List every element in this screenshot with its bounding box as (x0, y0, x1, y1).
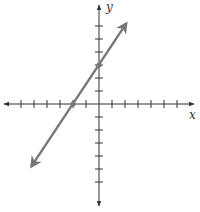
x-axis-label: x (189, 108, 196, 122)
marked-point (96, 62, 101, 67)
plotted-line (31, 23, 126, 166)
marked-point (70, 101, 75, 106)
coordinate-plane: y x (0, 0, 200, 212)
y-axis-label: y (105, 0, 113, 14)
